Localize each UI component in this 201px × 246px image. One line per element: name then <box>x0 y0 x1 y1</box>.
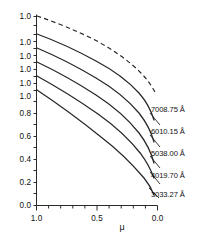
y-tick-label: 1.0 <box>20 38 32 47</box>
y-tick-label: 1.0 <box>20 92 32 101</box>
series-label-6010: 6010.15 Å <box>151 127 186 136</box>
y-tick-label: 0.4 <box>20 155 32 164</box>
curve-4019 <box>37 76 154 178</box>
series-label-5038: 5038.00 Å <box>151 149 186 158</box>
chart-canvas: 1.0 1.0 1.0 1.0 1.0 1.0 0.8 0.6 0.4 0.2 … <box>0 0 201 246</box>
series-labels-group: 7008.75 Å 6010.15 Å 5038.00 Å 4019.70 Å … <box>151 105 186 199</box>
axes-group <box>37 15 158 206</box>
y-tick-label: 0.2 <box>20 178 32 187</box>
series-label-4019: 4019.70 Å <box>151 171 186 180</box>
x-axis-title: μ <box>119 222 124 232</box>
limb-darkening-figure: 1.0 1.0 1.0 1.0 1.0 1.0 0.8 0.6 0.4 0.2 … <box>0 0 201 246</box>
y-tick-label: 0.0 <box>20 201 32 210</box>
curve-3033 <box>37 90 154 195</box>
x-tick-label: 0.5 <box>91 214 103 223</box>
y-tick-label: 0.8 <box>20 109 32 118</box>
y-tick-label: 1.0 <box>20 12 32 21</box>
curve-reference <box>37 16 156 94</box>
x-tick-marks <box>37 206 158 211</box>
series-label-3033: 3033.27 Å <box>151 190 186 199</box>
series-label-7008: 7008.75 Å <box>151 105 186 114</box>
y-tick-label: 0.6 <box>20 132 32 141</box>
x-tick-label: 1.0 <box>31 214 43 223</box>
x-tick-label: 0.0 <box>152 214 164 223</box>
y-tick-label: 1.0 <box>20 52 32 61</box>
y-axis-labels: 1.0 1.0 1.0 1.0 1.0 1.0 0.8 0.6 0.4 0.2 … <box>20 12 32 210</box>
y-tick-label: 1.0 <box>20 65 32 74</box>
y-tick-label: 1.0 <box>20 79 32 88</box>
x-axis-labels: 1.0 0.5 0.0 <box>31 214 164 223</box>
